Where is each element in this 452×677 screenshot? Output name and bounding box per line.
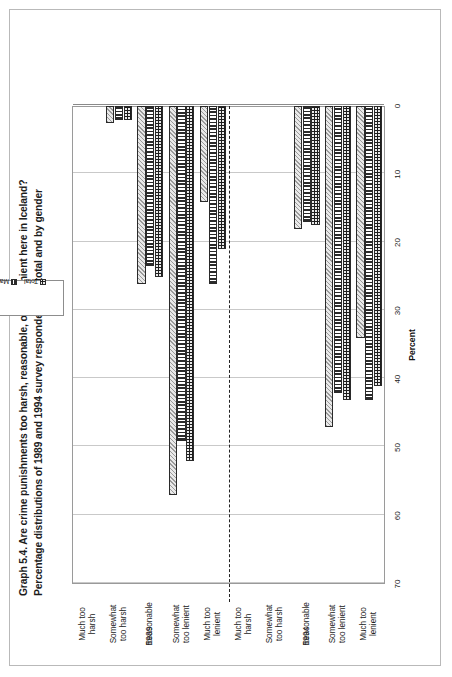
value-tick-50: 50 [393, 443, 402, 452]
category-label-line: too lenient [338, 605, 347, 643]
period-caption-1994: 1994 [301, 627, 311, 646]
bar-1994-somewhat-too-lenient-total [343, 106, 351, 400]
value-tick-0: 0 [393, 104, 402, 108]
page-canvas: Graph 5.4. Are crime punishments too har… [0, 0, 452, 677]
category-label-line: Much too [359, 607, 368, 641]
legend-swatch-male-icon [11, 279, 17, 285]
bar-1994-much-too-lenient-female [356, 106, 364, 338]
bar-1994-reasonable-female [294, 106, 302, 229]
value-tick-20: 20 [393, 238, 402, 247]
legend-item-total: Total [24, 279, 46, 286]
bar-1989-much-too-lenient-female [200, 106, 208, 202]
category-label-line: Somewhat [172, 605, 181, 644]
category-label-much-too-lenient: Much toolenient [203, 587, 223, 661]
legend-rows: TotalMaleFemale [0, 264, 50, 300]
category-label-line: harsh [244, 614, 253, 634]
category-label-line: too harsh [275, 607, 284, 641]
legend-swatch-total-icon [40, 279, 46, 285]
category-label-line: Somewhat [265, 605, 274, 644]
bar-1994-reasonable-total [311, 106, 319, 226]
chart-legend: TotalMaleFemale [0, 280, 64, 316]
value-tick-30: 30 [393, 306, 402, 315]
bar-1989-somewhat-too-lenient-female [169, 106, 177, 495]
value-axis-title: Percent [407, 329, 417, 361]
value-tick-40: 40 [393, 375, 402, 384]
category-label-somewhat-too-lenient: Somewhattoo lenient [328, 587, 348, 661]
value-tick-70: 70 [393, 580, 402, 589]
legend-item-male: Male [0, 279, 17, 286]
category-label-line: Much too [234, 607, 243, 641]
category-label-line: Somewhat [109, 605, 118, 644]
bar-1989-reasonable-total [155, 106, 163, 277]
bar-1989-somewhat-too-lenient-total [186, 106, 194, 461]
bar-1989-somewhat-too-lenient-male [177, 106, 185, 441]
bar-1994-much-too-lenient-male [365, 106, 373, 400]
legend-label: Male [0, 279, 9, 286]
category-label-line: Somewhat [328, 605, 337, 644]
category-label-much-too-harsh: Much tooharsh [78, 587, 98, 661]
category-label-line: harsh [88, 614, 97, 634]
bar-1989-much-too-lenient-male [209, 106, 217, 284]
category-label-much-too-harsh: Much tooharsh [234, 587, 254, 661]
value-tick-60: 60 [393, 511, 402, 520]
category-label-reasonable: Reasonable [302, 587, 312, 661]
gridline-0 [73, 104, 384, 105]
bar-1989-much-too-lenient-total [218, 106, 226, 249]
rotated-chart-canvas: Graph 5.4. Are crime punishments too har… [0, 0, 452, 640]
category-label-somewhat-too-lenient: Somewhattoo lenient [172, 587, 192, 661]
category-label-line: lenient [369, 612, 378, 636]
bar-1994-much-too-lenient-total [374, 106, 382, 386]
bar-1994-somewhat-too-lenient-male [334, 106, 342, 393]
value-tick-10: 10 [393, 170, 402, 179]
bar-1989-somewhat-too-harsh-female [106, 106, 114, 123]
category-label-line: too harsh [119, 607, 128, 641]
category-label-somewhat-too-harsh: Somewhattoo harsh [265, 587, 285, 661]
legend-label: Total [24, 279, 38, 286]
bar-1989-reasonable-male [146, 106, 154, 266]
category-label-much-too-lenient: Much toolenient [359, 587, 379, 661]
category-label-reasonable: Reasonable [145, 587, 155, 661]
bar-1989-reasonable-female [137, 106, 145, 284]
category-label-line: too lenient [182, 605, 191, 643]
category-label-line: Much too [203, 607, 212, 641]
category-label-somewhat-too-harsh: Somewhattoo harsh [109, 587, 129, 661]
bar-1994-reasonable-male [303, 106, 311, 222]
period-separator [229, 106, 230, 602]
category-label-line: Much too [78, 607, 87, 641]
category-label-line: lenient [213, 612, 222, 636]
period-caption-1989: 1989 [144, 627, 154, 646]
bar-1989-somewhat-too-harsh-total [124, 106, 132, 120]
bar-1994-somewhat-too-lenient-female [325, 106, 333, 427]
bar-1989-somewhat-too-harsh-male [115, 106, 123, 120]
